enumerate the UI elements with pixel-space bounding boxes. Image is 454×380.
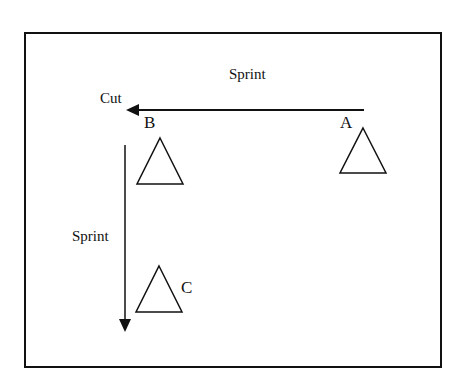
sprint-label-top: Sprint [229, 67, 266, 82]
cone-a-label: A [340, 114, 352, 131]
cone-b-icon [137, 138, 183, 184]
cone-c-icon [136, 266, 182, 312]
field-border [25, 33, 441, 367]
vertical-sprint-arrow [119, 145, 131, 332]
cone-b-label: B [144, 114, 155, 131]
cone-c-label: C [181, 279, 192, 296]
cone-a-icon [340, 128, 386, 173]
horizontal-sprint-arrow [126, 104, 364, 116]
cut-label: Cut [100, 91, 122, 106]
drill-diagram [0, 0, 454, 380]
sprint-label-side: Sprint [72, 229, 109, 244]
